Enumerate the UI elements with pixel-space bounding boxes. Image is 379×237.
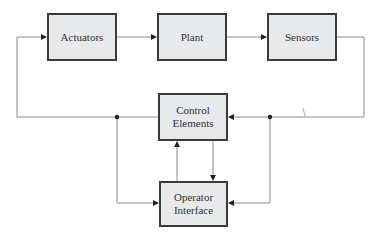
block-label-line2: Interface	[174, 204, 213, 217]
junction-dot-right	[268, 115, 272, 119]
arrow-left-junction-to-operator	[117, 117, 158, 203]
block-label: Sensors	[285, 31, 319, 44]
control-system-diagram: Actuators Plant Sensors Control Elements…	[0, 0, 379, 237]
block-label: Actuators	[61, 31, 104, 44]
block-actuators: Actuators	[47, 13, 117, 61]
block-sensors: Sensors	[267, 13, 337, 61]
block-label-line1: Operator	[174, 191, 213, 204]
block-operator-interface: Operator Interface	[159, 181, 228, 227]
block-label: Plant	[181, 31, 204, 44]
stray-mark	[303, 108, 305, 116]
block-plant: Plant	[157, 13, 227, 61]
block-label-line2: Elements	[173, 117, 214, 130]
junction-dot-left	[115, 115, 119, 119]
block-control-elements: Control Elements	[158, 93, 228, 141]
block-label-line1: Control	[176, 104, 210, 117]
arrow-right-junction-to-operator	[229, 117, 270, 203]
